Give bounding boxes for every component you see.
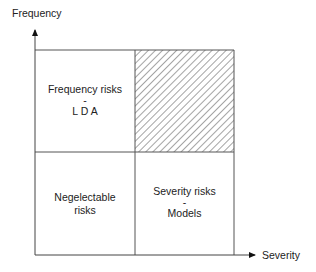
quadrant-top-left: Frequency risks - L D A: [35, 83, 135, 118]
quadrant-bottom-left-line2: risks: [35, 204, 135, 217]
y-axis-label: Frequency: [12, 7, 62, 20]
quadrant-bottom-right-line3: Models: [135, 207, 234, 220]
risk-matrix-diagram: [0, 0, 316, 272]
quadrant-bottom-right-line2: -: [135, 198, 234, 207]
hatched-quadrant: [135, 50, 234, 152]
quadrant-bottom-left-line1: Negelectable: [35, 191, 135, 204]
quadrant-bottom-left: Negelectable risks: [35, 191, 135, 217]
x-axis-label: Severity: [262, 249, 300, 262]
quadrant-top-left-line2: -: [35, 96, 135, 105]
quadrant-top-left-line3: L D A: [35, 105, 135, 118]
quadrant-bottom-right: Severity risks - Models: [135, 185, 234, 220]
